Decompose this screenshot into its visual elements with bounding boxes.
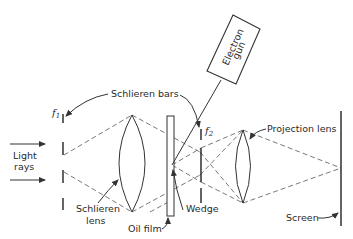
oil-film-pointer [162,218,168,229]
electron-gun: Electron gun [207,15,260,84]
wedge-label: Wedge [186,203,219,214]
light-rays-label-1: Light [13,150,37,161]
f2-label: f2 [204,125,214,138]
schlieren-lens-label-2: lens [86,215,106,226]
oil-film-plate [167,116,174,216]
schlieren-lens-label-1: Schlieren [76,203,120,214]
projection-lens-label: Projection lens [267,123,337,134]
schlieren-diagram: Light rays f1 Schlieren lens Oil film [0,0,353,239]
schlieren-bars-label: Schlieren bars [111,88,179,99]
schlieren-lens-pointer [98,180,118,203]
f1-label: f1 [51,107,60,120]
light-rays-label-2: rays [14,161,34,172]
oil-film-label: Oil film [128,223,162,234]
screen-label: Screen [286,212,319,223]
electron-beam [172,80,221,165]
projection-lens [236,130,251,203]
schlieren-bars-pointer-left [66,94,108,116]
screen-pointer [318,213,338,218]
schlieren-lens [119,115,145,212]
